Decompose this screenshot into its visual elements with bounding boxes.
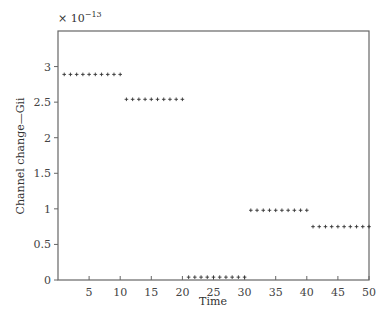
plus-marker: [131, 97, 135, 101]
plus-marker: [305, 208, 309, 212]
plus-marker: [87, 73, 91, 77]
plus-marker: [299, 208, 303, 212]
plus-marker: [268, 208, 272, 212]
plus-marker: [212, 275, 216, 279]
plus-marker: [286, 208, 290, 212]
plus-marker: [118, 73, 122, 77]
plus-marker: [143, 97, 147, 101]
plus-marker: [205, 275, 209, 279]
plus-marker: [193, 275, 197, 279]
x-tick-label: 5: [86, 286, 93, 299]
y-axis-ticks: 00.511.522.53: [34, 61, 59, 287]
plus-marker: [355, 225, 359, 229]
plus-marker: [311, 225, 315, 229]
y-tick-label: 2: [44, 132, 51, 145]
plus-marker: [174, 97, 178, 101]
y-tick-label: 1.5: [34, 167, 52, 180]
x-tick-label: 30: [238, 286, 252, 299]
plus-marker: [280, 208, 284, 212]
plus-marker: [243, 275, 247, 279]
plus-marker: [237, 275, 241, 279]
plus-marker: [199, 275, 203, 279]
plus-marker: [187, 275, 191, 279]
plus-marker: [274, 208, 278, 212]
plus-marker: [162, 97, 166, 101]
y-tick-label: 1: [44, 203, 51, 216]
plus-marker: [317, 225, 321, 229]
plus-marker: [230, 275, 234, 279]
plus-marker: [181, 97, 185, 101]
plus-marker: [218, 275, 222, 279]
x-tick-label: 45: [331, 286, 345, 299]
y-tick-label: 3: [44, 61, 51, 74]
plus-marker: [261, 208, 265, 212]
plus-marker: [330, 225, 334, 229]
plus-marker: [112, 73, 116, 77]
y-multiplier-label: × 10−13: [58, 10, 102, 25]
plus-marker: [367, 225, 371, 229]
plus-marker: [81, 73, 85, 77]
x-tick-label: 40: [300, 286, 314, 299]
plus-marker: [361, 225, 365, 229]
x-tick-label: 50: [362, 286, 376, 299]
plus-marker: [62, 73, 66, 77]
plus-marker: [224, 275, 228, 279]
plus-marker: [100, 73, 104, 77]
y-axis-label: Channel change—Gii: [14, 97, 27, 214]
plus-marker: [168, 97, 172, 101]
y-tick-label: 0: [44, 274, 51, 287]
plus-marker: [69, 73, 73, 77]
plus-marker: [249, 208, 253, 212]
x-tick-label: 35: [269, 286, 283, 299]
data-points: [62, 73, 370, 279]
plus-marker: [137, 97, 141, 101]
plus-marker: [293, 208, 297, 212]
x-axis-label: Time: [199, 295, 227, 308]
y-tick-label: 2.5: [34, 96, 52, 109]
x-tick-label: 20: [175, 286, 189, 299]
plus-marker: [94, 73, 98, 77]
plus-marker: [75, 73, 79, 77]
x-tick-label: 10: [113, 286, 127, 299]
y-tick-label: 0.5: [34, 238, 52, 251]
plus-marker: [156, 97, 160, 101]
plot-frame: [58, 31, 369, 280]
plus-marker: [324, 225, 328, 229]
plus-marker: [342, 225, 346, 229]
x-tick-label: 15: [144, 286, 158, 299]
plus-marker: [349, 225, 353, 229]
plus-marker: [255, 208, 259, 212]
plus-marker: [150, 97, 154, 101]
plus-marker: [106, 73, 110, 77]
plus-marker: [125, 97, 129, 101]
plot-border: [58, 31, 369, 280]
plus-marker: [336, 225, 340, 229]
chart: 00.511.522.53 5101520253035404550 × 10−1…: [0, 0, 392, 324]
